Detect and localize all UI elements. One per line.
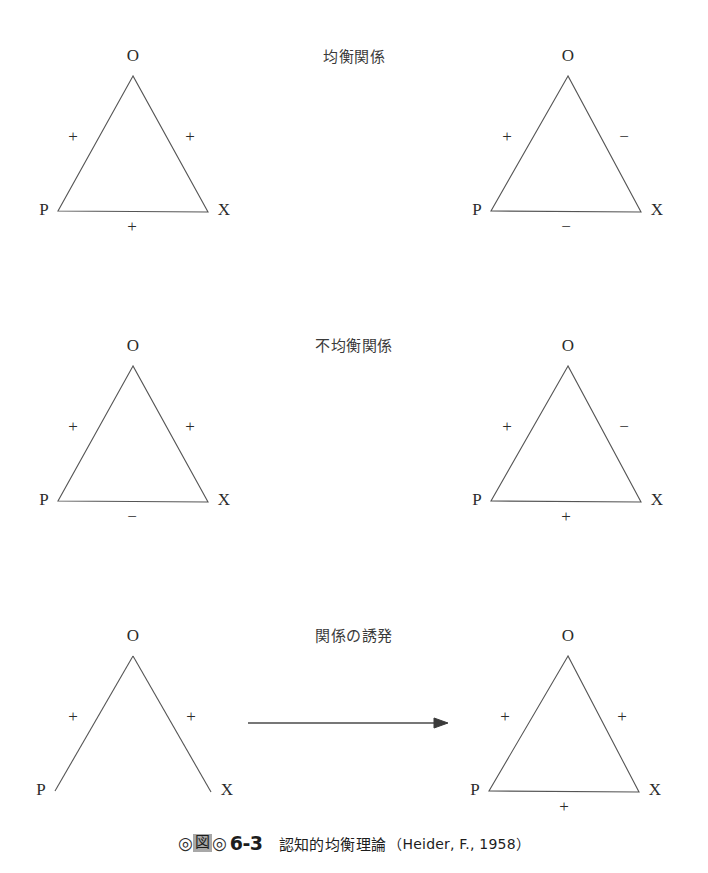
diagram-induction-right-sign-po: +: [495, 708, 515, 725]
caption-ring-left-icon: ◎: [178, 835, 193, 852]
diagram-imbalanced-left-sign-px: −: [122, 508, 142, 525]
caption-ring-right-icon: ◎: [212, 835, 227, 852]
diagram-balanced-left-node-p: P: [33, 200, 55, 220]
diagram-balanced-left-node-x: X: [213, 200, 235, 220]
diagram-induction-right-sign-px: +: [554, 798, 574, 815]
diagram-induction-left-node-o: O: [122, 626, 144, 646]
row-label-induction: 関係の誘発: [292, 624, 416, 645]
diagram-balanced-right-node-o: O: [557, 46, 579, 66]
diagram-balanced-right-sign-ox: −: [614, 128, 634, 145]
diagram-imbalanced-right-node-o: O: [557, 336, 579, 356]
caption-title: 認知的均衡理論: [279, 833, 387, 854]
diagram-imbalanced-left-sign-ox: +: [180, 418, 200, 435]
diagram-balanced-left-node-o: O: [122, 46, 144, 66]
diagram-imbalanced-left-node-x: X: [213, 490, 235, 510]
row-label-imbalanced: 不均衡関係: [292, 334, 416, 355]
diagram-induction-left-node-x: X: [216, 780, 238, 800]
diagram-imbalanced-left-node-o: O: [122, 336, 144, 356]
diagram-induction-left-sign-po: +: [63, 708, 83, 725]
caption-marker: ◎ 図 ◎: [178, 834, 227, 852]
diagram-balanced-left-sign-po: +: [63, 128, 83, 145]
diagram-induction-right-node-x: X: [644, 780, 666, 800]
diagram-induction-right-node-p: P: [464, 780, 486, 800]
diagram-imbalanced-right-sign-ox: −: [614, 418, 634, 435]
diagram-induction-left-node-p: P: [30, 780, 52, 800]
diagram-balanced-right-sign-po: +: [497, 128, 517, 145]
row-label-balanced: 均衡関係: [292, 45, 416, 66]
caption-zu-box: 図: [193, 834, 212, 852]
diagram-balanced-left-sign-px: +: [122, 218, 142, 235]
diagram-imbalanced-right-node-p: P: [466, 490, 488, 510]
diagram-induction-right-sign-ox: +: [612, 708, 632, 725]
diagram-imbalanced-left-node-p: P: [33, 490, 55, 510]
diagram-balanced-right-node-x: X: [646, 200, 668, 220]
diagram-balanced-right-sign-px: −: [556, 218, 576, 235]
figure-canvas: [0, 0, 708, 873]
diagram-balanced-right-node-p: P: [466, 200, 488, 220]
diagram-induction-left-sign-ox: +: [181, 708, 201, 725]
caption-figure-number: 6-3: [230, 832, 263, 854]
diagram-imbalanced-left-sign-po: +: [63, 418, 83, 435]
figure-caption: ◎ 図 ◎ 6-3 認知的均衡理論 （Heider, F., 1958）: [0, 832, 708, 854]
diagram-balanced-left-sign-ox: +: [180, 128, 200, 145]
diagram-induction-right-node-o: O: [557, 626, 579, 646]
diagram-imbalanced-right-sign-po: +: [497, 418, 517, 435]
caption-source: （Heider, F., 1958）: [388, 833, 530, 853]
diagram-imbalanced-right-node-x: X: [646, 490, 668, 510]
induction-arrow: [248, 718, 448, 728]
diagram-imbalanced-right-sign-px: +: [556, 508, 576, 525]
